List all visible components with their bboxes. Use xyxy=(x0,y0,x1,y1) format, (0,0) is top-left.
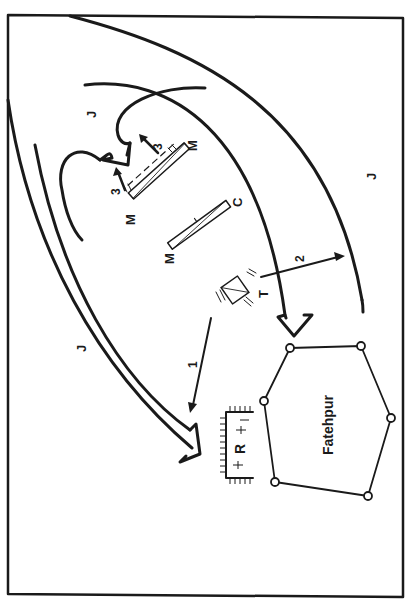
label-j-top-left: J xyxy=(84,111,99,118)
j-arrow-right xyxy=(70,16,363,336)
label-c-center: C xyxy=(230,197,245,207)
label-m-top-left: M xyxy=(123,214,138,225)
battle-diagram: Fatehpur J J J M M M C T R 3 3 1 2 xyxy=(0,0,409,612)
label-arrow-3a: 3 xyxy=(109,188,123,195)
label-j-left: J xyxy=(74,345,89,352)
label-t: T xyxy=(256,290,271,298)
label-m-center: M xyxy=(162,253,177,264)
label-arrow-1: 1 xyxy=(186,361,200,368)
label-m-top-right: M xyxy=(185,140,200,151)
label-r: R xyxy=(232,444,248,454)
label-arrow-2: 2 xyxy=(293,255,307,262)
unit-mc-center xyxy=(165,197,230,249)
map-frame xyxy=(8,15,403,597)
town-label: Fatehpur xyxy=(320,395,336,455)
label-arrow-3b: 3 xyxy=(151,143,165,150)
arrow-3a xyxy=(113,167,125,190)
label-j-right: J xyxy=(364,173,379,180)
